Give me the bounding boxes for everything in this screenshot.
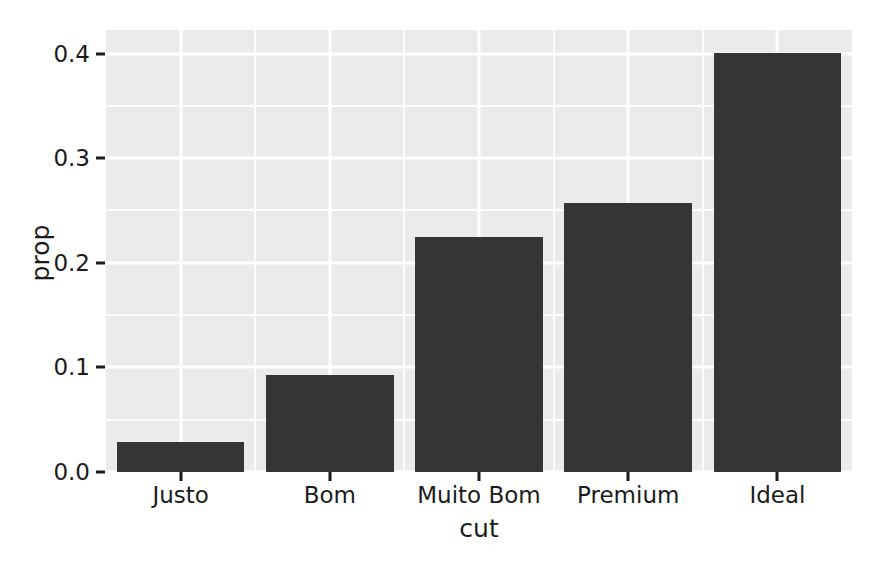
y-tick-label: 0.4 bbox=[22, 41, 90, 67]
x-tick-mark bbox=[478, 472, 481, 481]
y-tick-mark bbox=[96, 261, 105, 264]
x-tick-label: Justo bbox=[152, 482, 208, 508]
bar bbox=[714, 53, 842, 473]
y-tick-label: 0.2 bbox=[22, 250, 90, 276]
x-tick-label: Bom bbox=[304, 482, 356, 508]
x-tick-mark bbox=[328, 472, 331, 481]
y-tick-mark bbox=[96, 366, 105, 369]
x-axis-tick-labels: JustoBomMuito BomPremiumIdeal bbox=[106, 482, 852, 514]
bar bbox=[415, 237, 543, 472]
bar bbox=[266, 375, 394, 472]
bar bbox=[117, 442, 245, 472]
plot-panel bbox=[106, 30, 852, 472]
bar-chart: prop 0.00.10.20.30.4 JustoBomMuito BomPr… bbox=[0, 0, 891, 563]
y-tick-label: 0.3 bbox=[22, 145, 90, 171]
y-tick-label: 0.0 bbox=[22, 459, 90, 485]
y-tick-label: 0.1 bbox=[22, 354, 90, 380]
x-tick-label: Muito Bom bbox=[417, 482, 540, 508]
y-axis-tick-labels: 0.00.10.20.30.4 bbox=[22, 0, 90, 563]
y-axis-tick-marks bbox=[96, 0, 106, 563]
x-tick-label: Premium bbox=[577, 482, 679, 508]
y-tick-mark bbox=[96, 52, 105, 55]
x-tick-mark bbox=[627, 472, 630, 481]
x-tick-mark bbox=[179, 472, 182, 481]
bar-series bbox=[106, 30, 852, 472]
x-tick-mark bbox=[776, 472, 779, 481]
y-tick-mark bbox=[96, 157, 105, 160]
bar bbox=[564, 203, 692, 472]
x-axis-tick-marks bbox=[106, 472, 852, 482]
x-axis-title: cut bbox=[106, 514, 852, 543]
x-tick-label: Ideal bbox=[749, 482, 805, 508]
y-tick-mark bbox=[96, 471, 105, 474]
